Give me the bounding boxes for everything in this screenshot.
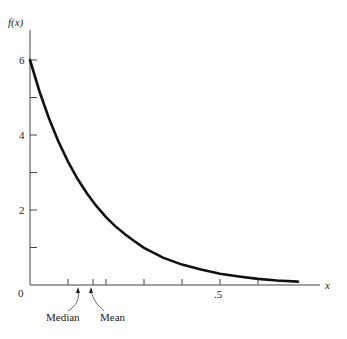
origin-label: 0 (18, 287, 24, 299)
median-label: Median (46, 311, 80, 323)
x-tick-label-0-5: .5 (214, 288, 223, 300)
mean-label: Mean (100, 311, 126, 323)
y-tick-label-4: 4 (19, 129, 25, 141)
x-axis-label: x (324, 279, 330, 291)
mean-arrowhead-icon (89, 287, 93, 293)
y-axis-label: f(x) (8, 16, 24, 29)
mean-arrow (91, 291, 104, 311)
y-ticks (30, 60, 37, 248)
y-tick-label-6: 6 (19, 54, 25, 66)
exponential-density-chart: f(x) 6 4 2 0 .5 x Median Mean (0, 0, 347, 339)
y-tick-label-2: 2 (19, 204, 25, 216)
median-arrowhead-icon (76, 287, 80, 293)
median-arrow (68, 291, 79, 311)
x-ticks (68, 279, 258, 285)
density-curve (30, 60, 298, 282)
